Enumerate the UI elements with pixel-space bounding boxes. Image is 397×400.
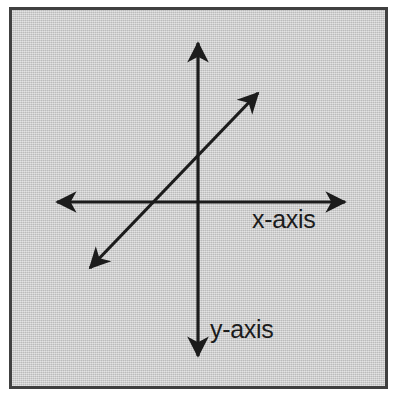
diagram-frame [9,7,388,389]
figure-root: x-axis y-axis [0,0,397,400]
y-axis-label: y-axis [210,317,273,342]
x-axis-label: x-axis [252,207,315,232]
